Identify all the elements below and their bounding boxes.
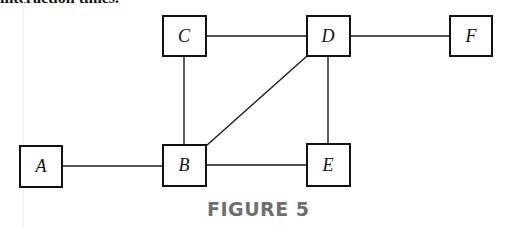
node-e: E [307,144,350,186]
node-f: F [450,16,492,56]
edge-b-d [206,56,307,146]
node-d: D [307,16,350,56]
node-d-label: D [321,26,335,46]
node-f-label: F [465,26,478,46]
graph-diagram: A B C D E F [0,0,506,227]
node-c: C [163,16,206,56]
node-e-label: E [322,155,334,175]
node-b: B [163,145,206,186]
node-c-label: C [178,26,191,46]
node-a: A [20,146,62,187]
node-b-label: B [179,155,190,175]
edges [62,36,450,166]
node-a-label: A [35,156,48,176]
figure-caption: FIGURE 5 [207,198,310,220]
